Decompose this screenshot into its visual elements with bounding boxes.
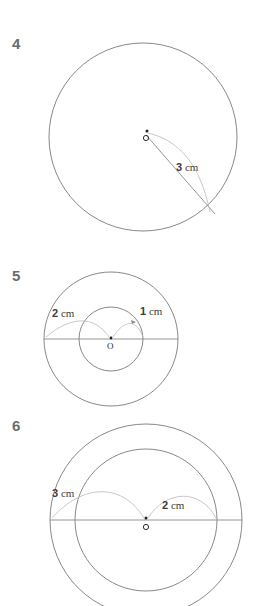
figure-4-drawing [0, 0, 262, 258]
outer-radius-label-2cm: 2 cm [52, 308, 74, 319]
center-dot [146, 130, 149, 133]
figure-4: 4 3 cm [0, 0, 262, 258]
outer-radius-leader-curve [46, 321, 109, 337]
center-point-label: O [107, 342, 114, 351]
radius-line [146, 135, 215, 214]
figure-5-drawing [0, 258, 262, 410]
figure-6: 6 3 cm 2 cm [0, 410, 262, 606]
outer-radius-label-unit: cm [58, 487, 74, 499]
radius-label-unit: cm [182, 161, 198, 173]
inner-radius-label-unit: cm [146, 305, 162, 317]
outer-radius-label-unit: cm [58, 307, 74, 319]
center-ring [143, 135, 148, 140]
inner-radius-label-2cm: 2 cm [162, 500, 184, 511]
outer-radius-label-3cm: 3 cm [52, 488, 74, 499]
radius-label-3cm: 3 cm [176, 162, 198, 173]
inner-radius-leader-curve [113, 323, 143, 337]
figure-6-drawing [0, 410, 262, 606]
figure-5: 5 O 2 cm 1 cm [0, 258, 262, 410]
center-dot [110, 337, 113, 340]
worksheet-page: 4 3 cm 5 [0, 0, 262, 606]
outer-circle-outline [50, 424, 242, 606]
center-dot [145, 517, 148, 520]
center-ring [143, 524, 148, 529]
circle-outline [49, 43, 237, 231]
inner-radius-label-unit: cm [168, 499, 184, 511]
inner-radius-label-1cm: 1 cm [140, 306, 162, 317]
